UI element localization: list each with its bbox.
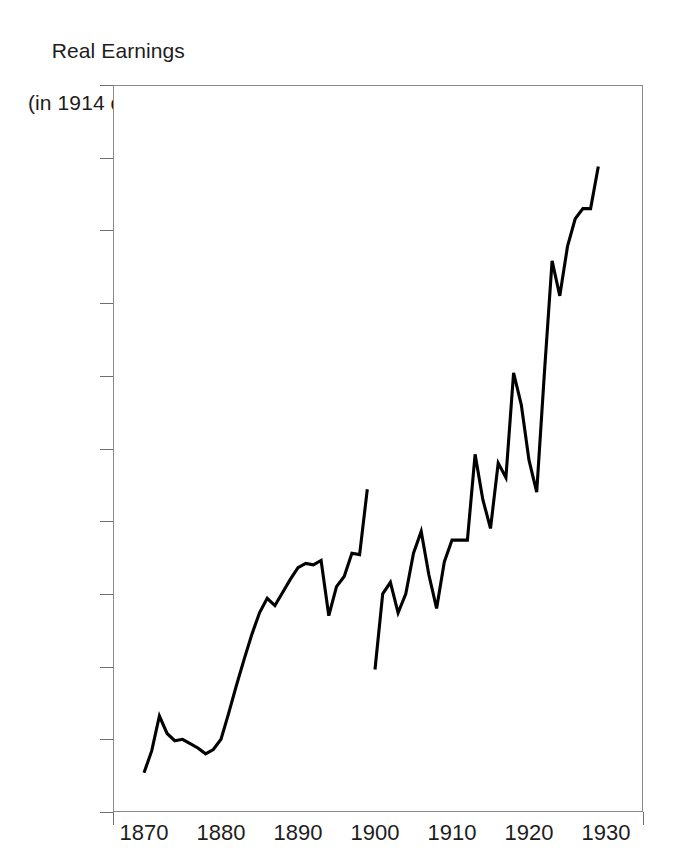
- y-axis-tick-mark: [100, 667, 113, 668]
- x-axis-tick-label: 1890: [274, 822, 323, 844]
- y-axis-tick-mark: [100, 158, 113, 159]
- y-axis-tick-mark: [100, 303, 113, 304]
- x-axis-tick-label: 1900: [351, 822, 400, 844]
- y-axis-tick-mark: [100, 376, 113, 377]
- x-axis-tick-label: 1910: [428, 822, 477, 844]
- y-axis-tick-mark: [100, 594, 113, 595]
- y-axis-tick-mark: [100, 449, 113, 450]
- y-axis-tick-mark: [100, 230, 113, 231]
- chart-title-line1: Real Earnings: [52, 39, 185, 62]
- x-axis-tick-label: 1930: [582, 822, 631, 844]
- x-axis-origin-tick: [113, 812, 114, 825]
- y-axis-tick-mark: [100, 739, 113, 740]
- y-axis-tick-mark: [100, 85, 113, 86]
- y-axis-tick-mark: [100, 812, 113, 813]
- x-axis-end-tick: [643, 812, 644, 825]
- x-axis-tick-label: 1880: [197, 822, 246, 844]
- y-axis-tick-mark: [100, 521, 113, 522]
- x-axis-tick-label: 1870: [120, 822, 169, 844]
- x-axis-tick-label: 1920: [505, 822, 554, 844]
- plot-area: [113, 85, 643, 812]
- chart-figure: Real Earnings (in 1914 dollars) $850$800…: [0, 0, 675, 863]
